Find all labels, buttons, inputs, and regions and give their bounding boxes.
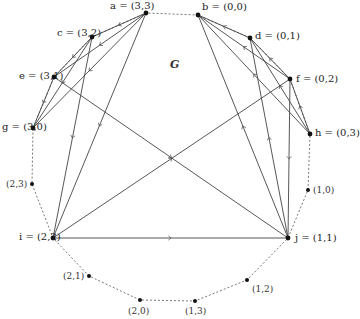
node-label-f: f = (0,2) [296, 74, 338, 84]
minor-node [306, 188, 310, 192]
minor-node-label: (1,3) [185, 306, 206, 316]
minor-node-label: (1,2) [252, 284, 273, 294]
nodes [30, 11, 312, 303]
minor-node [138, 298, 142, 302]
minor-node-label: (2,1) [63, 271, 84, 281]
node-b [196, 13, 201, 18]
graph-title: G [170, 58, 179, 71]
edges [33, 13, 310, 238]
node-d [248, 36, 253, 41]
edge-i-f [53, 79, 290, 238]
node-h [308, 132, 313, 137]
minor-node-label: (1,0) [313, 185, 334, 195]
minor-node [193, 299, 197, 303]
node-label-g: g = (3,0) [2, 122, 47, 132]
minor-node [87, 274, 91, 278]
edge-j-b [198, 15, 288, 238]
edge-f-d [250, 38, 290, 79]
node-label-a: a = (3,3) [110, 1, 154, 11]
node-label-d: d = (0,1) [255, 31, 300, 41]
node-j [286, 236, 291, 241]
minor-node [30, 182, 34, 186]
minor-node-label: (2,3) [6, 179, 27, 189]
minor-node-label: (2,0) [128, 306, 149, 316]
edge-a-i [53, 13, 146, 238]
edge-a-e [54, 13, 146, 77]
edge-f-b [198, 15, 290, 79]
node-label-h: h = (0,3) [315, 128, 360, 138]
minor-node [245, 278, 249, 282]
node-label-c: c = (3,2) [57, 28, 101, 38]
edge-f-j [288, 79, 290, 238]
node-label-b: b = (0,0) [202, 2, 247, 12]
node-f [288, 77, 293, 82]
node-label-i: i = (2,2) [19, 232, 61, 242]
node-label-j: j = (1,1) [295, 233, 337, 243]
node-label-e: e = (3,1) [19, 71, 63, 81]
node-a [144, 11, 149, 16]
